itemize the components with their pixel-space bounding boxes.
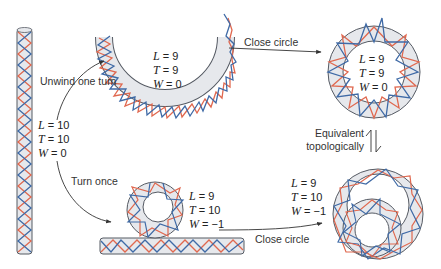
- turned-open-values: L = 9 T = 10 W = −1: [188, 189, 224, 231]
- equivalent-label-line1: Equivalent: [315, 127, 364, 139]
- unwound-closed-T: T = 9: [359, 66, 384, 80]
- turned-open-W: W = −1: [189, 217, 224, 231]
- unwound-open-W: W = 0: [153, 77, 182, 91]
- turn-arrow: [57, 161, 111, 222]
- straight-W: W = 0: [38, 146, 67, 160]
- turned-open-L: L = 9: [188, 189, 214, 203]
- turned-closed-circle: [333, 169, 423, 259]
- close-bottom-label: Close circle: [255, 233, 309, 245]
- straight-values: L = 10 T = 10 W = 0: [37, 118, 69, 160]
- unwound-closed-L: L = 9: [358, 52, 384, 66]
- turned-closed-T: T = 10: [291, 190, 322, 204]
- unwound-closed-W: W = 0: [359, 80, 388, 94]
- straight-dna-rod: [17, 28, 32, 255]
- unwound-open-values: L = 9 T = 9 W = 0: [152, 49, 182, 91]
- equivalence-arrows: [366, 130, 381, 152]
- close-top-arrow: [229, 48, 321, 52]
- unwind-label: Unwind one turn: [40, 75, 117, 87]
- unwound-open-L: L = 9: [152, 49, 178, 63]
- straight-L: L = 10: [37, 118, 69, 132]
- unwound-open-T: T = 9: [153, 63, 178, 77]
- equivalent-label-line2: topologically: [306, 140, 365, 152]
- turned-open-T: T = 10: [189, 203, 220, 217]
- turned-closed-values: L = 9 T = 10 W = −1: [290, 176, 326, 218]
- close-top-label: Close circle: [244, 36, 298, 48]
- dna-topology-diagram: L = 10 T = 10 W = 0 L = 9 T = 9 W = 0 L …: [0, 0, 441, 269]
- unwind-arrow: [57, 61, 104, 120]
- straight-T: T = 10: [38, 132, 69, 146]
- turned-closed-W: W = −1: [291, 204, 326, 218]
- close-bottom-arrow: [219, 223, 322, 230]
- turned-closed-L: L = 9: [290, 176, 316, 190]
- unwound-closed-values: L = 9 T = 9 W = 0: [358, 52, 388, 94]
- turn-label: Turn once: [71, 175, 118, 187]
